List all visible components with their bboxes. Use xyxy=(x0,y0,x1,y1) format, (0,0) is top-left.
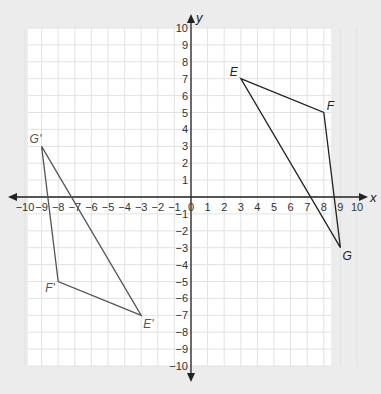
vertex-label: E xyxy=(230,65,239,79)
x-axis-label: x xyxy=(369,190,377,205)
x-tick-label: 8 xyxy=(321,201,327,213)
y-tick-label: −7 xyxy=(175,309,188,321)
y-tick-label: −9 xyxy=(175,343,188,355)
y-tick-label: −8 xyxy=(175,326,188,338)
x-tick-label: −10 xyxy=(16,201,35,213)
vertex-label: G' xyxy=(30,132,42,146)
y-axis-up-arrow-icon xyxy=(187,14,195,23)
x-tick-label: 5 xyxy=(271,201,277,213)
y-tick-label: 7 xyxy=(182,73,188,85)
y-tick-label: −2 xyxy=(175,225,188,237)
y-tick-label: 9 xyxy=(182,39,188,51)
x-tick-label: 4 xyxy=(254,201,260,213)
x-tick-label: 10 xyxy=(351,201,363,213)
x-tick-label: −6 xyxy=(85,201,98,213)
vertex-label: E' xyxy=(143,317,154,331)
x-tick-label: 9 xyxy=(337,201,343,213)
x-tick-label: −3 xyxy=(135,201,148,213)
x-tick-label: 7 xyxy=(304,201,310,213)
x-tick-label: −8 xyxy=(52,201,65,213)
y-tick-label: 8 xyxy=(182,56,188,68)
x-axis-right-arrow-icon xyxy=(359,193,368,201)
y-tick-label: 3 xyxy=(182,140,188,152)
y-tick-label: −6 xyxy=(175,292,188,304)
y-axis-down-arrow-icon xyxy=(187,373,195,382)
y-tick-label: 5 xyxy=(182,107,188,119)
x-tick-label: −4 xyxy=(118,201,131,213)
vertex-label: G xyxy=(342,249,351,263)
vertex-label: F xyxy=(327,99,335,113)
x-tick-label: −9 xyxy=(35,201,48,213)
y-tick-label: 1 xyxy=(182,174,188,186)
x-tick-label: 2 xyxy=(221,201,227,213)
vertex-label: F' xyxy=(45,281,55,295)
y-tick-label: 2 xyxy=(182,157,188,169)
x-axis-left-arrow-icon xyxy=(8,193,17,201)
x-tick-label: 3 xyxy=(238,201,244,213)
x-tick-label: 6 xyxy=(288,201,294,213)
y-tick-label: 4 xyxy=(182,123,188,135)
x-tick-label: −2 xyxy=(152,201,165,213)
x-tick-label: −5 xyxy=(102,201,115,213)
y-tick-label: 10 xyxy=(176,22,188,34)
y-tick-label: −5 xyxy=(175,276,188,288)
coordinate-plane: xy −10−9−8−7−6−5−4−3−2−10123456789101098… xyxy=(0,0,381,394)
x-tick-label: 1 xyxy=(205,201,211,213)
y-axis-label: y xyxy=(195,10,204,25)
y-tick-label: −1 xyxy=(175,208,188,220)
y-tick-label: −4 xyxy=(175,259,188,271)
y-tick-label: −3 xyxy=(175,242,188,254)
x-tick-label: 0 xyxy=(188,201,194,213)
y-tick-label: −10 xyxy=(169,360,188,372)
y-tick-label: 6 xyxy=(182,90,188,102)
